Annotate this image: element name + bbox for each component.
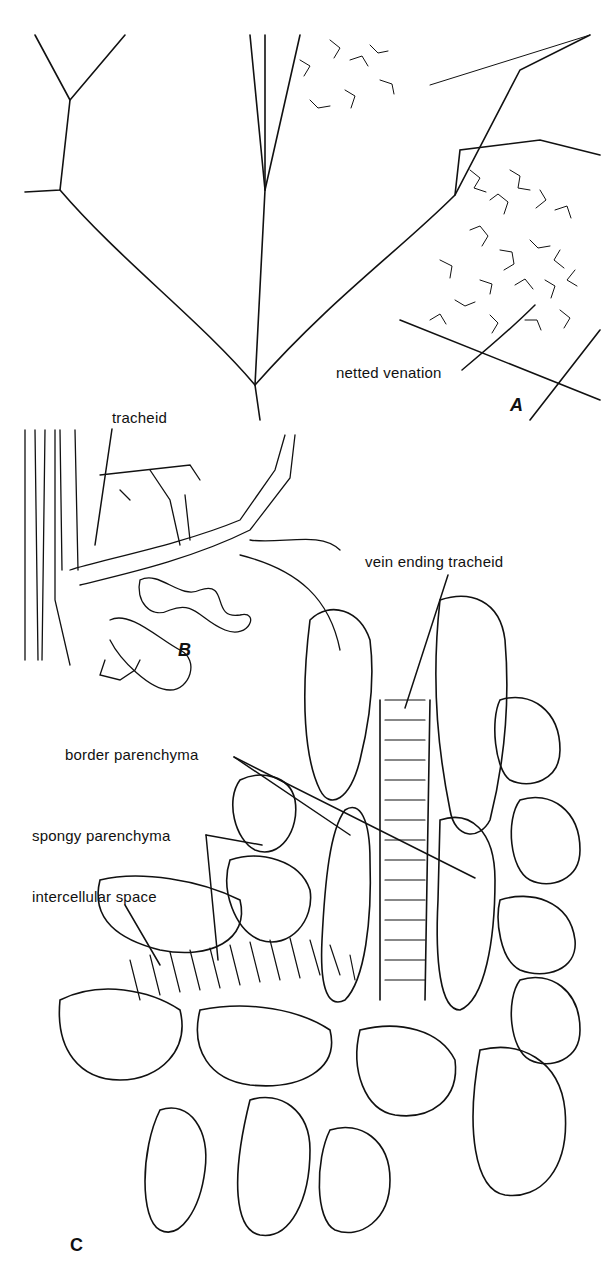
figure-drawing	[0, 0, 605, 1277]
label-netted-venation: netted venation	[336, 364, 442, 381]
leader-tracheid	[95, 429, 112, 545]
leader-vein-ending-tracheid	[405, 575, 448, 708]
label-spongy-parenchyma: spongy parenchyma	[32, 827, 170, 844]
label-vein-ending-tracheid: vein ending tracheid	[365, 553, 503, 570]
panel-c-cells	[59, 596, 580, 1235]
label-intercellular-space: intercellular space	[32, 888, 157, 905]
leader-spongy-parenchyma-2	[206, 835, 218, 960]
panel-label-c: C	[70, 1235, 83, 1256]
leader-spongy-parenchyma-1	[206, 835, 262, 845]
panel-label-a: A	[510, 395, 523, 416]
netted-venation-pattern	[300, 40, 577, 333]
panel-label-b: B	[178, 640, 191, 661]
botanical-figure: netted venation A tracheid B vein ending…	[0, 0, 605, 1277]
label-tracheid: tracheid	[112, 409, 167, 426]
leader-border-parenchyma-1	[234, 757, 350, 835]
panel-a-veins	[25, 35, 600, 420]
label-border-parenchyma: border parenchyma	[65, 746, 198, 763]
leader-intercellular-space	[125, 905, 160, 965]
label-leaders	[95, 305, 535, 965]
